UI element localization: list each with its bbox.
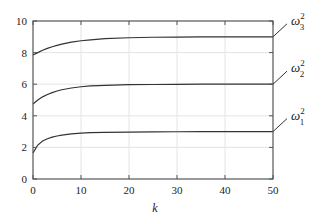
series-labels: ω23ω22ω21 [273,11,305,132]
x-tick-label: 40 [220,184,232,196]
y-tick-label: 4 [22,110,28,122]
x-tick-label: 0 [30,184,36,196]
x-tick-label: 10 [76,184,88,196]
y-tick-label: 0 [22,173,28,185]
y-tick-label: 6 [22,78,28,90]
x-tick-label: 50 [268,184,280,196]
plot-frame [33,21,273,179]
series-curve [33,132,273,153]
y-tick-label: 10 [16,15,28,27]
y-tick-label: 2 [22,141,28,153]
x-tick-label: 30 [172,184,184,196]
x-axis-ticks: 01020304050 [30,21,279,196]
y-tick-label: 8 [22,47,28,59]
plot-border [33,21,273,179]
leader-line [273,71,287,84]
leader-line [273,119,287,132]
y-axis-ticks: 0246810 [16,15,273,185]
series-curve [33,84,273,104]
series-label: ω21 [291,106,305,127]
series-label: ω22 [291,58,305,79]
grid-lines [33,21,273,179]
x-tick-label: 20 [124,184,136,196]
line-chart: 01020304050 0246810 k ω23ω22ω21 [0,0,318,222]
x-axis-title: k [152,201,158,215]
curves [33,37,273,153]
leader-line [273,24,287,37]
series-label: ω23 [291,11,305,32]
